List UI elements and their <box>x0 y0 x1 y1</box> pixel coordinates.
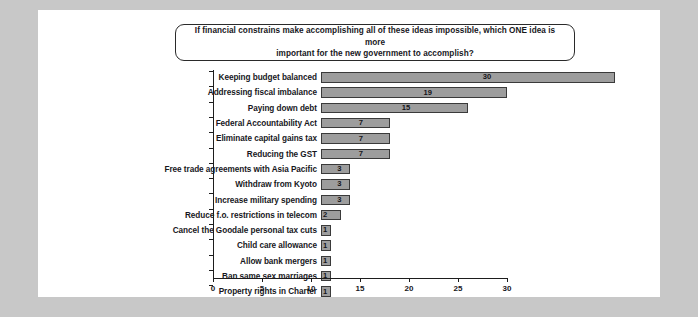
bar-track: 7 <box>321 146 628 161</box>
bar <box>321 118 390 128</box>
x-axis-tick-label: 20 <box>405 284 414 293</box>
bar-value-label: 1 <box>323 241 327 251</box>
bar-row: Withdraw from Kyoto3 <box>148 177 628 192</box>
y-axis-tick <box>209 178 213 179</box>
x-axis-tick <box>213 278 214 282</box>
bar <box>321 149 390 159</box>
bar-row: Free trade agreements with Asia Pacific3 <box>148 162 628 177</box>
y-axis-tick <box>209 132 213 133</box>
bar-row: Ban same sex marriages1 <box>148 269 628 284</box>
bar <box>321 87 507 97</box>
bar <box>321 179 350 189</box>
bar <box>321 103 468 113</box>
bar-value-label: 2 <box>323 210 327 220</box>
y-axis-tick <box>209 255 213 256</box>
bar-row: Addressing fiscal imbalance19 <box>148 85 628 100</box>
x-axis-tick <box>262 278 263 282</box>
bar-value-label: 1 <box>323 225 327 235</box>
bar-track: 1 <box>321 223 628 238</box>
bar-category-label: Cancel the Goodale personal tax cuts <box>148 226 321 235</box>
chart-title-callout: If financial constrains make accomplishi… <box>175 24 575 61</box>
bar-row: Property rights in Charter1 <box>148 284 628 299</box>
y-axis-tick <box>209 163 213 164</box>
y-axis-tick <box>209 209 213 210</box>
bar-value-label: 15 <box>402 103 410 113</box>
x-axis-tick <box>360 278 361 282</box>
bar-row: Child care allowance1 <box>148 238 628 253</box>
bar-row: Reducing the GST7 <box>148 146 628 161</box>
bar-track: 1 <box>321 254 628 269</box>
bar-category-label: Increase military spending <box>148 196 321 205</box>
y-axis-tick <box>209 224 213 225</box>
bar-category-label: Addressing fiscal imbalance <box>148 88 321 97</box>
bar-track: 1 <box>321 238 628 253</box>
bar-row: Reduce f.o. restrictions in telecom2 <box>148 208 628 223</box>
y-axis-tick <box>209 86 213 87</box>
bar-value-label: 30 <box>483 72 491 82</box>
x-axis-tick-label: 0 <box>211 284 215 293</box>
bar-category-label: Federal Accountability Act <box>148 119 321 128</box>
bar-category-label: Free trade agreements with Asia Pacific <box>148 165 321 174</box>
bar <box>321 72 615 82</box>
x-axis-tick <box>507 278 508 282</box>
slide-panel: If financial constrains make accomplishi… <box>38 10 660 297</box>
bar-category-label: Reduce f.o. restrictions in telecom <box>148 211 321 220</box>
screenshot-root: If financial constrains make accomplishi… <box>0 0 698 317</box>
y-axis-tick <box>209 193 213 194</box>
bar-value-label: 19 <box>423 88 431 98</box>
bar-row: Cancel the Goodale personal tax cuts1 <box>148 223 628 238</box>
bar-track: 19 <box>321 85 628 100</box>
y-axis-tick <box>209 239 213 240</box>
bar-track: 3 <box>321 192 628 207</box>
bar-value-label: 3 <box>337 179 341 189</box>
y-axis-tick <box>209 102 213 103</box>
bar-track: 3 <box>321 162 628 177</box>
bar-row: Allow bank mergers1 <box>148 254 628 269</box>
chart-title-line-1: If financial constrains make accomplishi… <box>195 26 555 47</box>
bar <box>321 164 350 174</box>
y-axis-tick <box>209 148 213 149</box>
bar-track: 7 <box>321 116 628 131</box>
x-axis-tick-label: 15 <box>356 284 365 293</box>
bar-track: 3 <box>321 177 628 192</box>
bar-category-label: Withdraw from Kyoto <box>148 180 321 189</box>
x-axis-tick-label: 25 <box>454 284 463 293</box>
bar <box>321 133 390 143</box>
bar-category-label: Reducing the GST <box>148 150 321 159</box>
bar-value-label: 3 <box>337 195 341 205</box>
bar-value-label: 7 <box>359 118 363 128</box>
y-axis-tick <box>209 117 213 118</box>
y-axis-tick <box>209 270 213 271</box>
bar-track: 2 <box>321 208 628 223</box>
bar-row: Keeping budget balanced30 <box>148 70 628 85</box>
y-axis-tick <box>209 71 213 72</box>
bar-value-label: 1 <box>323 256 327 266</box>
chart-title: If financial constrains make accomplishi… <box>188 25 562 60</box>
bar-track: 15 <box>321 101 628 116</box>
bar-track: 7 <box>321 131 628 146</box>
bar-category-label: Eliminate capital gains tax <box>148 134 321 143</box>
bar-value-label: 1 <box>323 287 327 297</box>
bar-category-label: Property rights in Charter <box>148 287 321 296</box>
x-axis-tick <box>311 278 312 282</box>
bar-row: Federal Accountability Act7 <box>148 116 628 131</box>
bar-value-label: 7 <box>359 134 363 144</box>
x-axis-tick-label: 10 <box>307 284 316 293</box>
bar-value-label: 1 <box>323 271 327 281</box>
bar-value-label: 3 <box>337 164 341 174</box>
bar-category-label: Ban same sex marriages <box>148 272 321 281</box>
bar-row: Eliminate capital gains tax7 <box>148 131 628 146</box>
bar-track: 1 <box>321 284 628 299</box>
bar-row: Paying down debt15 <box>148 101 628 116</box>
bar-chart-plot-area: Keeping budget balanced30Addressing fisc… <box>148 70 628 300</box>
x-axis-tick <box>458 278 459 282</box>
x-axis-tick <box>409 278 410 282</box>
x-axis-tick-label: 5 <box>260 284 264 293</box>
y-axis-line <box>213 70 214 278</box>
bar-category-label: Child care allowance <box>148 241 321 250</box>
bar <box>321 195 350 205</box>
bar-category-label: Allow bank mergers <box>148 257 321 266</box>
bar-value-label: 7 <box>359 149 363 159</box>
bar-category-label: Keeping budget balanced <box>148 73 321 82</box>
bar-category-label: Paying down debt <box>148 104 321 113</box>
